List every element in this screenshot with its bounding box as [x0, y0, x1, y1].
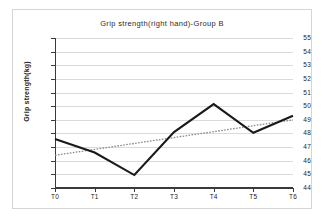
y-axis-title: Grip strength(kg): [23, 61, 30, 123]
x-axis-tick: [55, 188, 56, 192]
chart-card: Grip strength(right hand)-Group B Grip s…: [12, 9, 312, 209]
x-axis-tick-label: T2: [124, 193, 144, 200]
x-axis-tick: [214, 188, 215, 192]
x-axis-tick: [253, 188, 254, 192]
x-axis-tick: [174, 188, 175, 192]
chart-title: Grip strength(right hand)-Group B: [13, 19, 311, 28]
series-plot: [55, 38, 293, 188]
x-axis-tick-label: T3: [164, 193, 184, 200]
x-axis-tick: [95, 188, 96, 192]
grip-strength-series: [55, 104, 293, 175]
x-axis-tick-label: T1: [85, 193, 105, 200]
x-axis-tick-label: T4: [204, 193, 224, 200]
x-axis-tick: [293, 188, 294, 192]
x-axis-tick-label: T6: [283, 193, 303, 200]
x-axis-tick: [134, 188, 135, 192]
x-axis-tick-label: T5: [243, 193, 263, 200]
x-axis-tick-label: T0: [45, 193, 65, 200]
trend-line-series: [55, 120, 293, 155]
